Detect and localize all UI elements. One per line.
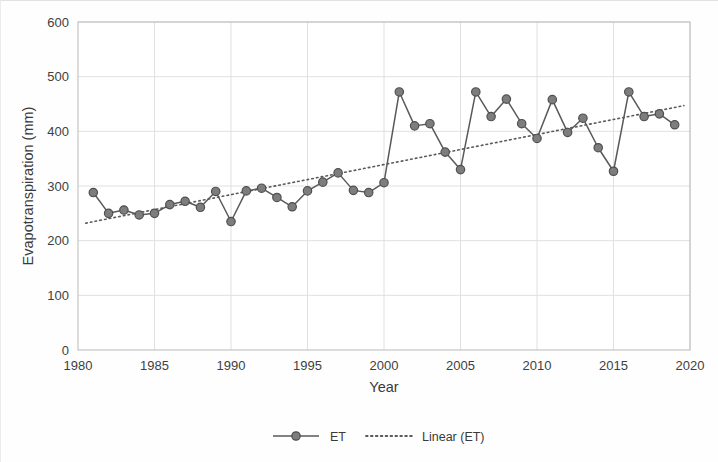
x-tick-label: 2000 <box>370 358 399 373</box>
y-axis-title: Evapotranspiration (mm) <box>20 107 36 266</box>
data-point-marker <box>288 203 296 211</box>
legend-item-linear-et: Linear (ET) <box>366 430 485 444</box>
chart-figure: 6005004003002001000 19801985199019952000… <box>0 0 718 462</box>
data-point-marker <box>349 186 357 194</box>
data-point-marker <box>104 209 112 217</box>
y-tick-label: 300 <box>47 179 69 194</box>
data-point-marker <box>579 114 587 122</box>
data-point-marker <box>120 206 128 214</box>
data-point-marker <box>594 144 602 152</box>
data-point-marker <box>181 197 189 205</box>
data-point-marker <box>625 88 633 96</box>
data-point-marker <box>303 187 311 195</box>
legend-et-label: ET <box>330 430 346 444</box>
x-axis-tick-labels: 198019851990199520002005201020152020 <box>64 358 705 373</box>
x-axis-title: Year <box>369 379 398 395</box>
x-tick-label: 1985 <box>140 358 169 373</box>
x-tick-label: 1995 <box>293 358 322 373</box>
data-point-marker <box>227 217 235 225</box>
data-point-marker <box>609 167 617 175</box>
data-point-marker <box>257 184 265 192</box>
x-tick-label: 2005 <box>446 358 475 373</box>
data-point-marker <box>273 193 281 201</box>
data-point-marker <box>426 119 434 127</box>
x-tick-label: 2010 <box>523 358 552 373</box>
data-point-marker <box>242 187 250 195</box>
data-point-marker <box>196 203 204 211</box>
data-point-marker <box>563 128 571 136</box>
data-point-marker <box>655 110 663 118</box>
data-point-marker <box>150 209 158 217</box>
legend-item-et: ET <box>273 430 346 444</box>
y-tick-label: 100 <box>47 288 69 303</box>
x-tick-label: 2020 <box>676 358 705 373</box>
data-point-marker <box>472 88 480 96</box>
data-point-marker <box>640 112 648 120</box>
x-tick-label: 1990 <box>217 358 246 373</box>
y-tick-label: 0 <box>62 343 69 358</box>
y-tick-label: 600 <box>47 15 69 30</box>
data-point-marker <box>135 211 143 219</box>
data-point-marker <box>166 200 174 208</box>
data-point-marker <box>380 179 388 187</box>
x-tick-label: 2015 <box>599 358 628 373</box>
data-point-marker <box>89 188 97 196</box>
data-point-marker <box>319 178 327 186</box>
data-point-marker <box>212 187 220 195</box>
data-point-marker <box>671 121 679 129</box>
data-point-marker <box>456 165 464 173</box>
data-point-marker <box>365 188 373 196</box>
y-tick-label: 400 <box>47 124 69 139</box>
data-point-marker <box>395 88 403 96</box>
y-tick-label: 200 <box>47 233 69 248</box>
data-point-marker <box>441 148 449 156</box>
x-tick-label: 1980 <box>64 358 93 373</box>
y-tick-label: 500 <box>47 69 69 84</box>
chart-legend: ET Linear (ET) <box>273 430 485 444</box>
data-point-marker <box>410 122 418 130</box>
data-point-marker <box>518 119 526 127</box>
legend-et-marker <box>292 432 300 440</box>
data-point-marker <box>533 134 541 142</box>
y-axis-tick-labels: 6005004003002001000 <box>47 15 69 358</box>
legend-trend-label: Linear (ET) <box>422 430 485 444</box>
data-point-marker <box>334 169 342 177</box>
data-point-marker <box>548 95 556 103</box>
data-point-marker <box>487 112 495 120</box>
data-point-marker <box>502 95 510 103</box>
evapotranspiration-line-chart: 6005004003002001000 19801985199019952000… <box>1 1 718 462</box>
